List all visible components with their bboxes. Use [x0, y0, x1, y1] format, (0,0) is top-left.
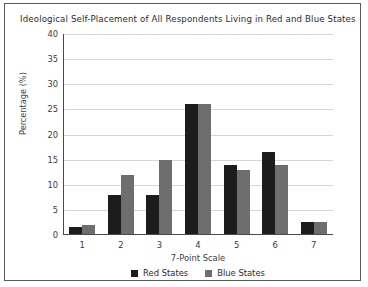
x-axis-line	[63, 234, 333, 235]
bar-red-states-6[interactable]	[262, 152, 275, 235]
x-tick-label: 5	[234, 240, 239, 250]
legend-label: Blue States	[217, 268, 265, 278]
bar-group: 6	[256, 34, 295, 235]
bar-red-states-2[interactable]	[108, 195, 121, 235]
bar-red-states-5[interactable]	[224, 165, 237, 235]
y-tick-label: 30	[47, 79, 58, 89]
bar-group: 3	[140, 34, 179, 235]
x-tick-label: 7	[311, 240, 316, 250]
bar-red-states-4[interactable]	[185, 104, 198, 235]
chart-title: Ideological Self-Placement of All Respon…	[20, 14, 356, 24]
legend-swatch-icon	[131, 270, 138, 277]
x-tick-label: 6	[273, 240, 278, 250]
bar-group: 2	[102, 34, 141, 235]
y-tick-label: 40	[47, 29, 58, 39]
legend-label: Red States	[143, 268, 188, 278]
y-tick-label: 0	[53, 230, 58, 240]
bar-blue-states-4[interactable]	[198, 104, 211, 235]
legend-swatch-icon	[205, 270, 212, 277]
bar-group: 7	[294, 34, 333, 235]
x-tick-label: 2	[118, 240, 123, 250]
bar-blue-states-2[interactable]	[121, 175, 134, 235]
bar-group: 5	[217, 34, 256, 235]
y-axis-line	[63, 34, 64, 235]
bar-blue-states-5[interactable]	[237, 170, 250, 235]
bar-red-states-3[interactable]	[146, 195, 159, 235]
chart-figure: Ideological Self-Placement of All Respon…	[4, 3, 361, 281]
bar-group: 1	[63, 34, 102, 235]
bar-blue-states-3[interactable]	[159, 160, 172, 235]
legend-entry[interactable]: Red States	[131, 268, 188, 278]
bar-group: 4	[179, 34, 218, 235]
bars-layer: 1234567	[63, 34, 333, 235]
y-axis-title: Percentage (%)	[18, 72, 28, 135]
plot-area: 0510152025303540 1234567	[63, 34, 333, 235]
x-tick-label: 1	[80, 240, 85, 250]
y-tick-label: 35	[47, 54, 58, 64]
y-tick-label: 5	[53, 205, 58, 215]
legend-entry[interactable]: Blue States	[205, 268, 265, 278]
y-tick-label: 15	[47, 155, 58, 165]
x-tick-label: 4	[195, 240, 200, 250]
y-tick-label: 25	[47, 104, 58, 114]
chart-legend: Red StatesBlue States	[63, 268, 333, 278]
bar-blue-states-6[interactable]	[275, 165, 288, 235]
y-tick-label: 10	[47, 180, 58, 190]
x-tick-label: 3	[157, 240, 162, 250]
x-axis-title: 7-Point Scale	[63, 253, 333, 263]
y-tick-label: 20	[47, 130, 58, 140]
